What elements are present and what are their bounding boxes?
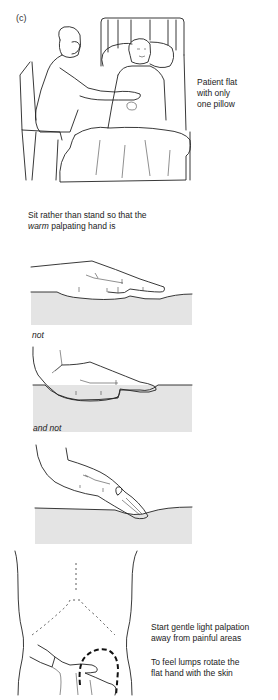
caption-line: one pillow: [197, 99, 277, 110]
caption-line: Start gentle light palpation: [151, 622, 277, 633]
raised-wrist-hand-illustration: [0, 345, 278, 435]
caption-line: To feel lumps rotate the: [151, 657, 277, 668]
and-not-caption: and not: [33, 423, 61, 433]
caption-line: with only: [197, 88, 277, 99]
caption-line: flat hand with the skin: [151, 668, 277, 679]
caption-line: Patient flat: [197, 77, 277, 88]
not-caption: not: [32, 330, 44, 340]
caption-fragment: palpating hand is: [51, 221, 115, 231]
feel-lumps-caption: To feel lumps rotate the flat hand with …: [151, 657, 277, 679]
sit-instruction-caption: Sit rather than stand so that the warm p…: [28, 210, 228, 232]
emphasis-word: warm: [28, 221, 49, 231]
caption-line: warm palpating hand is: [28, 221, 228, 232]
caption-line: away from painful areas: [151, 633, 277, 644]
caption-line: Sit rather than stand so that the: [28, 210, 228, 221]
start-palpation-caption: Start gentle light palpation away from p…: [151, 622, 277, 644]
flat-hand-illustration: [0, 255, 278, 335]
patient-position-caption: Patient flat with only one pillow: [197, 77, 277, 110]
fingertips-prodding-illustration: [0, 440, 278, 550]
